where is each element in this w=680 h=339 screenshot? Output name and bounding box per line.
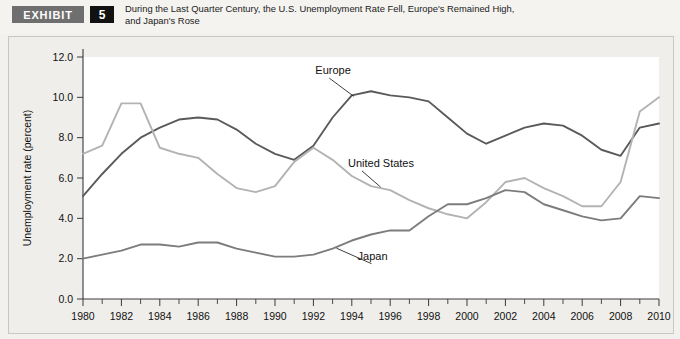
- x-tick-label: 2002: [494, 310, 518, 322]
- y-axis-title: Unemployment rate (percent): [21, 110, 33, 247]
- y-axis-title-group: Unemployment rate (percent): [21, 110, 33, 247]
- x-tick-label: 1986: [187, 310, 211, 322]
- y-tick-label: 6.0: [58, 172, 73, 184]
- x-tick-label: 2010: [647, 310, 671, 322]
- exhibit-title-line-2: and Japan's Rose: [125, 15, 514, 27]
- y-tick-label: 4.0: [58, 212, 73, 224]
- y-tick-label: 2.0: [58, 252, 73, 264]
- chart-panel: 0.02.04.06.08.010.012.019801982198419861…: [8, 36, 674, 334]
- x-tick-label: 2006: [571, 310, 595, 322]
- exhibit-page: EXHIBIT 5 During the Last Quarter Centur…: [0, 0, 680, 339]
- y-tick-label: 12.0: [53, 51, 74, 63]
- plot-background: [83, 57, 659, 299]
- y-tick-label: 8.0: [58, 131, 73, 143]
- x-tick-label: 1992: [302, 310, 326, 322]
- x-tick-label: 2008: [609, 310, 633, 322]
- exhibit-header: EXHIBIT 5 During the Last Quarter Centur…: [0, 0, 680, 34]
- x-tick-label: 1984: [148, 310, 172, 322]
- x-tick-label: 2004: [532, 310, 556, 322]
- series-label-japan: Japan: [358, 250, 388, 262]
- exhibit-title-line-1: During the Last Quarter Century, the U.S…: [125, 3, 514, 15]
- x-tick-label: 1998: [417, 310, 441, 322]
- exhibit-number-badge: 5: [90, 6, 114, 23]
- x-tick-label: 1990: [263, 310, 287, 322]
- exhibit-title: During the Last Quarter Century, the U.S…: [125, 3, 514, 27]
- x-tick-label: 1994: [340, 310, 364, 322]
- y-tick-label: 0.0: [58, 293, 73, 305]
- plot-background-rect: [83, 57, 659, 299]
- plot-area-wrapper: 0.02.04.06.08.010.012.019801982198419861…: [9, 37, 673, 333]
- y-tick-label: 10.0: [53, 91, 74, 103]
- line-chart: 0.02.04.06.08.010.012.019801982198419861…: [9, 37, 673, 333]
- series-label-united-states: United States: [348, 157, 415, 169]
- x-tick-label: 1996: [379, 310, 403, 322]
- x-tick-label: 1982: [110, 310, 134, 322]
- x-tick-label: 2000: [455, 310, 479, 322]
- exhibit-badge: EXHIBIT: [12, 6, 84, 23]
- x-tick-label: 1980: [71, 310, 95, 322]
- x-tick-label: 1988: [225, 310, 249, 322]
- series-label-europe: Europe: [315, 64, 350, 76]
